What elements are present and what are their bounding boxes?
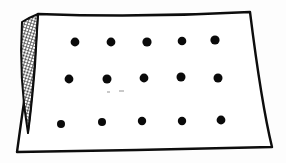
grid-dot [178, 117, 186, 125]
grid-dot [65, 75, 74, 84]
grid-dot [177, 73, 186, 82]
faint-speck [119, 90, 124, 92]
grid-dot [71, 38, 80, 47]
grid-dot [214, 74, 223, 83]
faint-speck [107, 91, 110, 93]
grid-dot [138, 117, 146, 125]
sketch-canvas [0, 0, 286, 163]
grid-dot [98, 118, 106, 126]
grid-dot [142, 37, 151, 46]
grid-dot [57, 120, 65, 128]
grid-dot [217, 116, 226, 125]
grid-dot [178, 37, 187, 46]
grid-dot [103, 75, 112, 84]
figure-root [0, 0, 286, 163]
grid-dot [210, 35, 219, 44]
grid-dot [107, 38, 116, 47]
grid-dot [140, 74, 149, 83]
